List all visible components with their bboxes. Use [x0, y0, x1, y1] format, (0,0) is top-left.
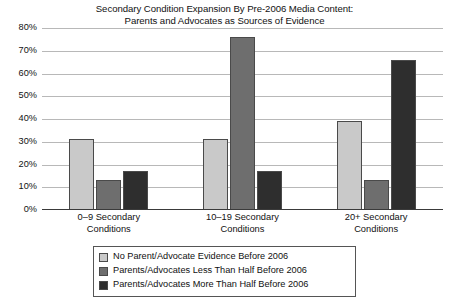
x-axis-tick-label: 20+ SecondaryConditions: [310, 212, 442, 242]
bar-group: [337, 28, 416, 210]
bar[interactable]: [230, 37, 255, 210]
y-axis-tick-label: 30%: [0, 137, 37, 146]
legend-item-label: No Parent/Advocate Evidence Before 2006: [113, 252, 288, 261]
x-axis-line: [42, 209, 443, 210]
y-axis-tick-label: 80%: [0, 23, 37, 32]
y-axis-tick-label: 50%: [0, 92, 37, 101]
bar[interactable]: [96, 180, 121, 210]
bar-group: [203, 28, 282, 210]
x-axis-tick-label: 10–19 SecondaryConditions: [176, 212, 308, 242]
y-axis-tick-label: 40%: [0, 114, 37, 123]
legend-item-label: Parents/Advocates Less Than Half Before …: [113, 266, 307, 275]
bar[interactable]: [337, 121, 362, 210]
legend-color-swatch: [99, 267, 108, 276]
legend-color-swatch: [99, 253, 108, 262]
y-axis-tick-label: 10%: [0, 183, 37, 192]
y-axis-tick-label: 0%: [0, 205, 37, 214]
legend-item[interactable]: No Parent/Advocate Evidence Before 2006: [99, 250, 350, 264]
legend-item[interactable]: Parents/Advocates More Than Half Before …: [99, 278, 350, 292]
plot-area: 80%70%60%50%40%30%20%10%0%: [0, 28, 449, 210]
x-axis-tick-label: 0–9 SecondaryConditions: [43, 212, 175, 242]
y-axis-tick-label: 60%: [0, 69, 37, 78]
plot-canvas: [42, 28, 443, 210]
bar-groups: [42, 28, 443, 210]
bar[interactable]: [69, 139, 94, 210]
legend-item[interactable]: Parents/Advocates Less Than Half Before …: [99, 264, 350, 278]
y-axis: 80%70%60%50%40%30%20%10%0%: [0, 28, 42, 210]
y-axis-tick-label: 70%: [0, 46, 37, 55]
chart-title: Secondary Condition Expansion By Pre-200…: [0, 3, 449, 27]
chart-figure: Secondary Condition Expansion By Pre-200…: [0, 0, 449, 303]
bar-group: [69, 28, 148, 210]
legend-color-swatch: [99, 281, 108, 290]
bar[interactable]: [203, 139, 228, 210]
bar[interactable]: [257, 171, 282, 210]
bar[interactable]: [364, 180, 389, 210]
chart-title-line-1: Secondary Condition Expansion By Pre-200…: [0, 3, 449, 15]
bar[interactable]: [123, 171, 148, 210]
chart-legend: No Parent/Advocate Evidence Before 2006P…: [93, 246, 356, 297]
bar[interactable]: [391, 60, 416, 210]
legend-item-label: Parents/Advocates More Than Half Before …: [113, 280, 308, 289]
y-axis-tick-label: 20%: [0, 160, 37, 169]
x-axis-labels: 0–9 SecondaryConditions10–19 SecondaryCo…: [42, 212, 443, 242]
chart-title-line-2: Parents and Advocates as Sources of Evid…: [0, 15, 449, 27]
